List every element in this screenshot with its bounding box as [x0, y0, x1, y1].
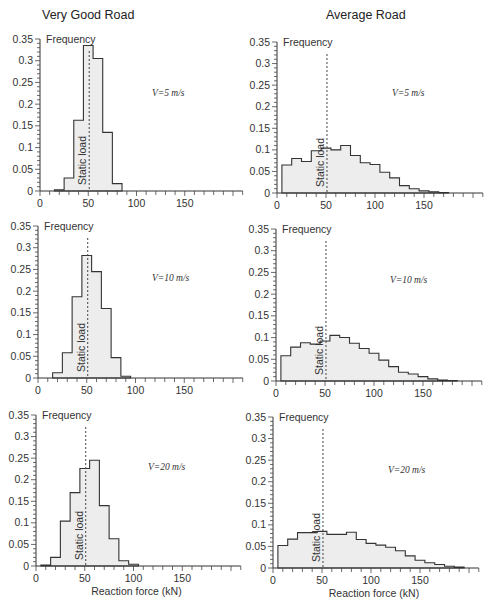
- histogram-bars: [282, 146, 449, 193]
- y-tick-label: 0.3: [18, 54, 33, 66]
- x-tick-label: 150: [173, 572, 191, 584]
- y-tick-label: 0.2: [14, 473, 29, 485]
- x-tick-label: 50: [79, 572, 91, 584]
- y-tick-label: 0.2: [18, 98, 33, 110]
- x-tick-label: 50: [320, 199, 332, 211]
- y-tick-label: 0.15: [246, 497, 267, 509]
- y-tick-label: 0.15: [250, 122, 271, 134]
- x-tick-label: 50: [82, 197, 94, 209]
- y-tick-label: 0: [23, 560, 29, 572]
- x-tick-label: 150: [176, 197, 194, 209]
- speed-annotation: V=10 m/s: [390, 275, 428, 285]
- y-tick-label: 0.2: [255, 100, 270, 112]
- y-tick-label: 0.15: [9, 495, 30, 507]
- x-tick-label: 150: [415, 199, 433, 211]
- y-axis-title: Frequency: [279, 411, 329, 423]
- y-tick-label: 0.3: [254, 244, 269, 256]
- x-tick-label: 0: [274, 199, 280, 211]
- x-tick-label: 100: [362, 574, 380, 586]
- x-tick-label: 50: [319, 387, 331, 399]
- x-tick-label: 0: [35, 384, 41, 396]
- y-tick-label: 0.05: [9, 538, 30, 550]
- y-tick-label: 0.25: [11, 263, 32, 275]
- y-axis-title: Frequency: [46, 33, 96, 45]
- static-load-label: Static load: [73, 511, 85, 560]
- y-tick-label: 0.25: [9, 452, 30, 464]
- y-axis-title: Frequency: [42, 409, 92, 421]
- x-tick-label: 100: [125, 572, 143, 584]
- y-tick-label: 0.35: [249, 223, 270, 235]
- y-tick-label: 0.05: [11, 350, 32, 362]
- x-tick-label: 150: [414, 387, 432, 399]
- y-axis-title: Frequency: [282, 223, 332, 235]
- y-tick-label: 0.35: [13, 33, 34, 45]
- speed-annotation: V=5 m/s: [392, 88, 425, 98]
- y-tick-label: 0.2: [251, 475, 266, 487]
- x-tick-label: 0: [273, 387, 279, 399]
- histogram-panel-4: 00.050.10.150.20.250.30.35050100150Frequ…: [249, 223, 482, 400]
- speed-annotation: V=5 m/s: [152, 88, 185, 98]
- x-tick-label: 0: [270, 574, 276, 586]
- y-tick-label: 0: [263, 375, 269, 387]
- x-tick-label: 100: [127, 384, 145, 396]
- y-tick-label: 0.25: [13, 76, 34, 88]
- speed-annotation: V=20 m/s: [388, 465, 426, 475]
- y-tick-label: 0.05: [250, 165, 271, 177]
- y-tick-label: 0.3: [255, 57, 270, 69]
- static-load-label: Static load: [75, 323, 87, 372]
- y-tick-label: 0.3: [16, 241, 31, 253]
- y-tick-label: 0: [260, 562, 266, 574]
- histogram-grid: 00.050.10.150.20.250.30.35050100150Frequ…: [0, 0, 491, 610]
- y-tick-label: 0.1: [16, 328, 31, 340]
- y-tick-label: 0.1: [255, 143, 270, 155]
- y-tick-label: 0: [264, 187, 270, 199]
- y-axis-title: Frequency: [44, 220, 94, 232]
- static-load-label: Static load: [76, 136, 88, 185]
- x-tick-label: 100: [366, 199, 384, 211]
- static-load-label: Static load: [313, 326, 325, 375]
- x-tick-label: 100: [365, 387, 383, 399]
- y-axis-title: Frequency: [283, 36, 333, 48]
- histogram-panel-6: 00.050.10.150.20.250.30.35050100150Frequ…: [246, 411, 479, 600]
- static-load-label: Static load: [314, 138, 326, 187]
- histogram-panel-1: 00.050.10.150.20.250.30.35050100150Frequ…: [13, 33, 243, 210]
- y-tick-label: 0.1: [251, 518, 266, 530]
- x-tick-label: 150: [411, 574, 429, 586]
- y-tick-label: 0.25: [250, 79, 271, 91]
- histogram-panel-3: 00.050.10.150.20.250.30.35050100150Frequ…: [11, 220, 243, 397]
- y-tick-label: 0.15: [13, 119, 34, 131]
- y-tick-label: 0.25: [249, 266, 270, 278]
- x-tick-label: 50: [316, 574, 328, 586]
- y-tick-label: 0.3: [14, 430, 29, 442]
- x-tick-label: 100: [128, 197, 146, 209]
- y-tick-label: 0.35: [250, 36, 271, 48]
- y-tick-label: 0: [27, 185, 33, 197]
- y-tick-label: 0.1: [14, 516, 29, 528]
- y-tick-label: 0.3: [251, 432, 266, 444]
- y-tick-label: 0.2: [254, 288, 269, 300]
- y-tick-label: 0.15: [249, 309, 270, 321]
- y-tick-label: 0.2: [16, 285, 31, 297]
- histogram-bars: [281, 335, 457, 381]
- speed-annotation: V=10 m/s: [152, 273, 190, 283]
- x-tick-label: 150: [175, 384, 193, 396]
- y-tick-label: 0.05: [249, 353, 270, 365]
- histogram-bars: [41, 460, 139, 566]
- y-tick-label: 0.35: [11, 220, 32, 232]
- x-tick-label: 0: [37, 197, 43, 209]
- y-tick-label: 0.05: [13, 163, 34, 175]
- histogram-bars: [53, 256, 131, 378]
- histogram-panel-2: 00.050.10.150.20.250.30.35050100150Frequ…: [250, 36, 483, 212]
- static-load-label: Static load: [310, 513, 322, 562]
- x-tick-label: 50: [81, 384, 93, 396]
- y-tick-label: 0.25: [246, 454, 267, 466]
- x-axis-title: Reaction force (kN): [91, 585, 181, 597]
- x-axis-title: Reaction force (kN): [329, 587, 419, 599]
- x-tick-label: 0: [33, 572, 39, 584]
- y-tick-label: 0.05: [246, 540, 267, 552]
- y-tick-label: 0.35: [9, 409, 30, 421]
- y-tick-label: 0.1: [254, 331, 269, 343]
- y-tick-label: 0.15: [11, 306, 32, 318]
- histogram-panel-5: 00.050.10.150.20.250.30.35050100150Frequ…: [9, 409, 241, 598]
- y-tick-label: 0.1: [18, 141, 33, 153]
